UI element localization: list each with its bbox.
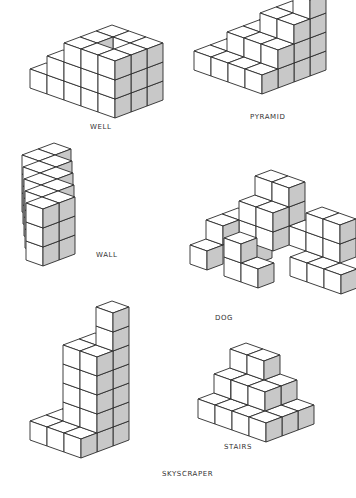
skyscraper-structure	[30, 301, 129, 458]
pyramid-structure	[194, 0, 326, 94]
cube	[26, 197, 59, 228]
wall-label: WALL	[96, 251, 118, 259]
pyramid-label: PYRAMID	[250, 113, 285, 121]
skyscraper-label: SKYSCRAPER	[162, 470, 213, 478]
cube	[272, 176, 305, 207]
stairs-structure	[198, 343, 314, 442]
block-structures-figure: WELL PYRAMID WALL DOG SKYSCRAPER STAIRS	[0, 0, 356, 498]
well-structure	[30, 25, 163, 118]
cube	[324, 263, 356, 294]
cube	[224, 232, 257, 263]
wall-structure	[22, 143, 75, 266]
stairs-label: STAIRS	[224, 443, 252, 451]
dog-structure	[190, 170, 356, 294]
cube	[96, 301, 129, 332]
cube	[98, 49, 131, 80]
cube	[323, 213, 356, 244]
dog-label: DOG	[215, 314, 233, 322]
cube	[249, 411, 282, 442]
cube	[247, 349, 280, 380]
cube	[241, 257, 274, 288]
cube	[248, 380, 281, 411]
well-label: WELL	[90, 123, 112, 131]
